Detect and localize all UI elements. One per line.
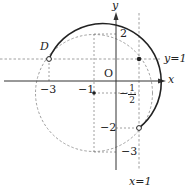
y-axis-label: y	[112, 0, 118, 11]
point-d-label: D	[40, 41, 49, 52]
frac-den: 2	[128, 96, 136, 105]
diagram-canvas	[0, 0, 186, 193]
line-y-eq-1-label: y=1	[164, 53, 186, 64]
x-axis-label: x	[168, 74, 174, 85]
point-intersection-filled	[137, 57, 141, 61]
point-end-hollow	[137, 126, 142, 131]
origin-label: O	[104, 68, 113, 79]
tick-x-minus-3: −3	[40, 84, 56, 95]
tick-y-minus-3: −3	[121, 146, 137, 157]
point-d-hollow	[47, 57, 52, 62]
frac-num: 1	[128, 84, 136, 93]
line-x-eq-1-label: x=1	[129, 176, 151, 187]
y-axis-arrow	[114, 12, 119, 20]
tick-half-sign: −	[119, 88, 128, 99]
tick-y-minus-2: −2	[100, 122, 116, 133]
tick-y-minus-half: 1 2	[128, 84, 136, 105]
tick-x-minus-1: −1	[78, 84, 94, 95]
tick-y-2: 2	[120, 28, 127, 39]
